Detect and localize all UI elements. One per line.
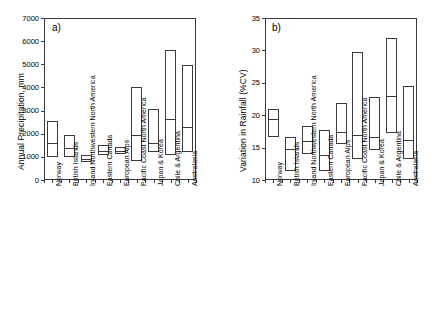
y-tick-mark — [262, 18, 265, 19]
x-tick-mark — [392, 180, 393, 183]
x-tick-mark — [307, 180, 308, 183]
x-tick-mark — [52, 180, 53, 183]
box-plot-median-line — [165, 119, 176, 120]
x-tick-mark — [44, 180, 45, 183]
panel-a: Annual Precipitation, mm a) 010002000300… — [0, 0, 221, 324]
box-plot-median-line — [403, 140, 414, 141]
box-plot-box — [336, 103, 347, 144]
box-plot-median-line — [182, 127, 193, 128]
box-plot-box — [403, 86, 414, 159]
y-tick-mark — [262, 83, 265, 84]
x-category-label: Norway — [276, 162, 283, 186]
x-tick-mark — [69, 180, 70, 183]
x-category-label: Australasia — [412, 151, 419, 186]
y-tick-label: 2000 — [11, 129, 39, 138]
box-plot-box — [268, 109, 279, 137]
y-tick-label: 20 — [232, 111, 260, 120]
x-category-label: Japan & Korea — [378, 139, 385, 186]
x-tick-mark — [103, 180, 104, 183]
x-tick-mark — [86, 180, 87, 183]
x-category-label: British Islands — [72, 142, 79, 186]
x-tick-mark — [120, 180, 121, 183]
y-tick-label: 10 — [232, 176, 260, 185]
x-tick-mark — [137, 180, 138, 183]
x-tick-mark — [265, 180, 266, 183]
y-tick-label: 25 — [232, 78, 260, 87]
box-plot-box — [182, 65, 193, 152]
x-tick-mark — [188, 180, 189, 183]
y-tick-label: 5000 — [11, 60, 39, 69]
x-category-label: British Islands — [293, 142, 300, 186]
x-tick-mark — [154, 180, 155, 183]
y-tick-label: 6000 — [11, 37, 39, 46]
x-category-label: Norway — [55, 162, 62, 186]
x-category-label: Australasia — [191, 151, 198, 186]
x-category-label: Japan & Korea — [157, 139, 164, 186]
x-category-label: Chile & Argentina — [395, 131, 402, 186]
y-tick-label: 7000 — [11, 14, 39, 23]
y-tick-label: 35 — [232, 14, 260, 23]
box-plot-median-line — [268, 119, 279, 120]
y-tick-mark — [41, 18, 44, 19]
x-tick-mark — [171, 180, 172, 183]
y-tick-label: 3000 — [11, 106, 39, 115]
y-tick-label: 1000 — [11, 152, 39, 161]
box-plot-median-line — [47, 143, 58, 144]
x-category-label: European Alps — [344, 140, 351, 186]
x-tick-mark — [324, 180, 325, 183]
y-tick-mark — [41, 41, 44, 42]
y-tick-label: 0 — [11, 176, 39, 185]
box-plot-box — [47, 121, 58, 157]
y-tick-label: 30 — [232, 46, 260, 55]
x-category-label: Eastern Canada — [106, 135, 113, 186]
box-plot-box — [386, 38, 397, 133]
x-tick-mark — [290, 180, 291, 183]
y-tick-mark — [262, 115, 265, 116]
figure-container: Annual Precipitation, mm a) 010002000300… — [0, 0, 442, 324]
y-tick-mark — [262, 148, 265, 149]
x-category-label: Pacific Coast North America — [361, 98, 368, 187]
x-category-label: Inland Northwestern North America — [310, 75, 317, 186]
y-tick-mark — [41, 134, 44, 135]
y-tick-mark — [41, 111, 44, 112]
y-tick-label: 15 — [232, 143, 260, 152]
y-tick-mark — [41, 87, 44, 88]
x-category-label: Chile & Argentina — [174, 131, 181, 186]
x-tick-mark — [409, 180, 410, 183]
x-category-label: Inland Northwestern North America — [89, 75, 96, 186]
x-tick-mark — [375, 180, 376, 183]
x-category-label: Eastern Canada — [327, 135, 334, 186]
panel-b: Variation in Rainfall (%CV) b) 101520253… — [221, 0, 442, 324]
y-tick-mark — [41, 64, 44, 65]
box-plot-median-line — [336, 132, 347, 133]
box-plot-median-line — [386, 96, 397, 97]
y-tick-label: 4000 — [11, 83, 39, 92]
y-tick-mark — [41, 157, 44, 158]
x-category-label: Pacific Coast North America — [140, 98, 147, 187]
x-tick-mark — [273, 180, 274, 183]
x-tick-mark — [358, 180, 359, 183]
x-tick-mark — [341, 180, 342, 183]
x-category-label: European Alps — [123, 140, 130, 186]
y-tick-mark — [262, 50, 265, 51]
